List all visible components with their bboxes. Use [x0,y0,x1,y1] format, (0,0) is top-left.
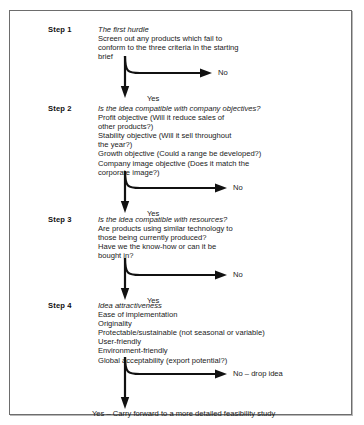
step-text-2: Is the idea compatible with company obje… [98,104,345,177]
step-body-line: Originality [98,319,345,328]
step-body-line: Growth objective (Could a range be devel… [98,149,345,158]
decision-arrow-svg [122,356,262,411]
step-body-line: Have we the know-how or can it be [98,242,345,251]
step-body-line: conform to the three criteria in the sta… [98,43,345,52]
step-body-line: Protectable/sustainable (not seasonal or… [98,328,345,337]
step-body-line: other products?) [98,122,345,131]
decision-arrow-2: No Yes [122,170,252,215]
step-label-4: Step 4 [48,301,90,310]
decision-arrow-svg [122,55,232,100]
step-body-line: Are products using similar technology to [98,224,345,233]
branch-label-no: No [218,68,228,77]
final-outcome-text: Yes – Carry forward to a more detailed f… [92,409,275,418]
decision-arrow-1: No Yes [122,55,232,100]
step-label-2: Step 2 [48,104,90,113]
step-body-line: Environment-friendly [98,346,345,355]
step-body-line: Ease of implementation [98,310,345,319]
branch-label-no-drop-idea: No – drop idea [233,369,283,378]
step-label-3: Step 3 [48,215,90,224]
branch-label-no: No [233,183,243,192]
step-body-line: Company image objective (Does it match t… [98,159,345,168]
figure-frame: Step 1 The first hurdle Screen out any p… [9,10,352,415]
step-body-line: Stability objective (Will it sell throug… [98,131,345,140]
branch-label-yes: Yes [147,94,159,103]
step-body-line: Screen out any products which fail to [98,34,345,43]
step-body-line: those being currently produced? [98,233,345,242]
branch-label-no: No [233,270,243,279]
step-heading-1: The first hurdle [98,25,345,34]
step-label-1: Step 1 [48,25,90,34]
step-body-line: Profit objective (Will it reduce sales o… [98,113,345,122]
step-heading-4: Idea attractiveness [98,301,345,310]
step-body-line: the year?) [98,140,345,149]
decision-arrow-svg [122,257,252,302]
step-body-line: User-friendly [98,337,345,346]
step-text-3: Is the idea compatible with resources? A… [98,215,345,260]
decision-arrow-4: No – drop idea [122,356,262,411]
step-heading-2: Is the idea compatible with company obje… [98,104,345,113]
decision-arrow-3: No Yes [122,257,252,302]
decision-arrow-svg [122,170,252,215]
step-heading-3: Is the idea compatible with resources? [98,215,345,224]
